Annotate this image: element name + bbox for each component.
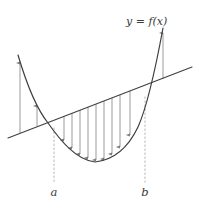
figure-container: y = f(x) a b (0, 0, 201, 214)
x-label-b: b (141, 185, 148, 199)
function-graph-figure: y = f(x) a b (0, 0, 201, 214)
function-curve (18, 28, 163, 162)
function-curve-path (18, 28, 163, 162)
x-label-a: a (51, 185, 58, 199)
vertical-difference-segments (20, 33, 163, 160)
function-label: y = f(x) (125, 15, 167, 28)
